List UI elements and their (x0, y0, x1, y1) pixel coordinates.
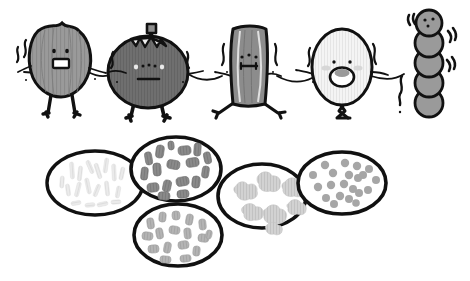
microscope-view-cloud-clusters (218, 164, 306, 235)
character-bead-chain (399, 10, 456, 117)
character-log (213, 26, 285, 118)
scene-svg (0, 0, 470, 281)
microscope-view-mid-rods (134, 204, 222, 266)
illustration-canvas: Worried food characters holding hands ab… (0, 0, 470, 281)
microscope-view-cocci-dots (298, 152, 386, 214)
onion-nerves (17, 40, 26, 62)
character-tomato (108, 24, 203, 121)
character-onion (17, 23, 106, 117)
character-egg (296, 29, 388, 118)
microscope-view-dark-rods (131, 137, 221, 201)
microscope-view-faint-rods (47, 151, 143, 215)
